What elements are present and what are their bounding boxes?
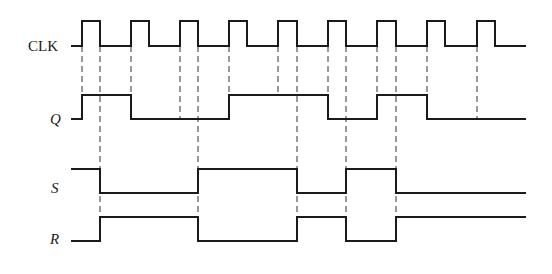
signal-waveforms [71,21,526,241]
timing-diagram: CLK Q S R [0,0,552,274]
signal-labels: CLK Q S R [28,38,61,247]
waveform-r [71,217,526,241]
label-clk: CLK [28,38,58,54]
waveform-clk [71,21,526,46]
dashed-guide-lines [82,46,477,241]
label-q: Q [50,111,61,127]
waveform-s [71,169,526,193]
waveform-q [71,95,526,119]
label-s: S [51,180,59,196]
label-r: R [49,231,59,247]
